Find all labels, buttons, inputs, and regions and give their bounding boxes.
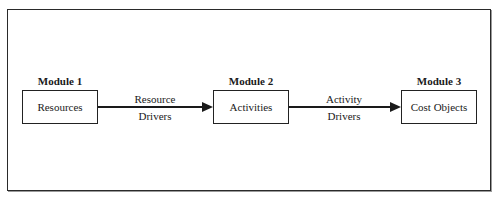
resource-drivers-label-line2: Drivers: [105, 109, 205, 123]
activities-box-label: Activities: [230, 101, 273, 113]
module-1-label: Module 1: [10, 75, 110, 87]
activity-drivers-label-line2: Drivers: [294, 109, 394, 123]
activity-drivers-label-line1: Activity: [294, 92, 394, 106]
resource-drivers-arrow-line: [98, 106, 203, 108]
activities-box: Activities: [213, 90, 289, 124]
module-2-label: Module 2: [201, 75, 301, 87]
cost-objects-box-label: Cost Objects: [411, 101, 468, 113]
activity-drivers-arrow-line: [289, 106, 391, 108]
resources-box: Resources: [22, 90, 98, 124]
resource-drivers-label-line1: Resource: [105, 92, 205, 106]
cost-objects-box: Cost Objects: [401, 90, 477, 124]
module-3-label: Module 3: [389, 75, 489, 87]
resources-box-label: Resources: [37, 101, 82, 113]
